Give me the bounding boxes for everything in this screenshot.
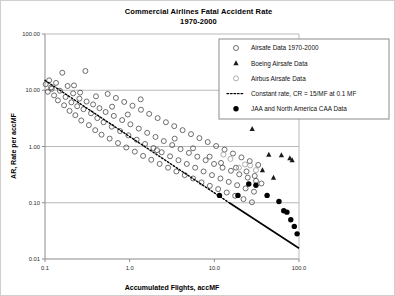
y-tick-label: 1.00 bbox=[29, 144, 40, 150]
data-point bbox=[83, 68, 88, 73]
data-point bbox=[224, 190, 229, 195]
data-point bbox=[253, 183, 258, 188]
data-point bbox=[250, 126, 255, 131]
x-tick-label: 1.0 bbox=[126, 265, 134, 271]
data-point bbox=[237, 172, 242, 177]
data-point bbox=[276, 199, 281, 204]
data-point bbox=[176, 158, 181, 163]
data-point bbox=[197, 136, 202, 141]
data-point bbox=[251, 189, 256, 194]
data-point bbox=[235, 183, 240, 188]
data-point bbox=[239, 155, 244, 160]
data-point bbox=[143, 141, 148, 146]
data-point bbox=[235, 193, 240, 198]
data-point bbox=[62, 103, 67, 108]
data-point bbox=[136, 126, 141, 131]
data-point bbox=[128, 122, 133, 127]
legend-label: Airsafe Data 1970-2000 bbox=[251, 44, 319, 51]
y-axis-label: AR, Rate per accMF bbox=[10, 112, 18, 178]
legend-item-4[interactable]: JAA and North America CAA Data bbox=[233, 105, 347, 112]
y-tick-label: 100.00 bbox=[22, 31, 40, 37]
data-point bbox=[157, 161, 162, 166]
data-point bbox=[259, 181, 264, 186]
data-point bbox=[69, 100, 74, 105]
data-point bbox=[77, 96, 82, 101]
data-point bbox=[149, 157, 154, 162]
trend-line-dashed bbox=[45, 80, 229, 202]
data-point bbox=[222, 147, 227, 152]
data-point bbox=[180, 128, 185, 133]
chart-figure: Commercial Airlines Fatal Accident Rate … bbox=[0, 0, 395, 296]
data-point bbox=[294, 231, 299, 236]
data-point bbox=[244, 169, 249, 174]
data-point bbox=[111, 113, 116, 118]
data-point bbox=[184, 161, 189, 166]
data-point bbox=[256, 162, 261, 167]
data-point bbox=[178, 147, 183, 152]
data-point bbox=[138, 97, 143, 102]
series-1 bbox=[250, 126, 295, 180]
y-tick-label: 10.00 bbox=[25, 87, 40, 93]
data-point bbox=[54, 80, 59, 85]
x-axis-label: Accumulated Flights, accMF bbox=[125, 284, 220, 292]
data-point bbox=[155, 116, 160, 121]
legend-label: JAA and North America CAA Data bbox=[251, 105, 347, 112]
data-point bbox=[221, 152, 226, 157]
data-point bbox=[246, 181, 251, 186]
data-point bbox=[93, 128, 98, 133]
x-tick-label: 0.1 bbox=[41, 265, 49, 271]
data-point bbox=[99, 132, 104, 137]
data-point bbox=[172, 136, 177, 141]
data-point bbox=[186, 150, 191, 155]
data-point bbox=[292, 224, 297, 229]
data-point bbox=[163, 120, 168, 125]
data-point bbox=[174, 169, 179, 174]
data-point bbox=[67, 108, 72, 113]
data-point bbox=[71, 91, 76, 96]
data-point bbox=[93, 94, 98, 99]
data-point bbox=[193, 165, 198, 170]
legend-label: Constant rate, CR = 15/MF at 0.1 MF bbox=[251, 90, 356, 97]
data-point bbox=[201, 169, 206, 174]
data-point bbox=[52, 93, 57, 98]
data-point bbox=[168, 154, 173, 159]
data-point bbox=[241, 197, 246, 202]
data-point bbox=[242, 162, 247, 167]
data-point bbox=[172, 124, 177, 129]
data-point bbox=[86, 123, 91, 128]
data-point bbox=[161, 139, 166, 144]
x-tick-label: 10.0 bbox=[209, 265, 220, 271]
data-point bbox=[132, 149, 137, 154]
data-point bbox=[279, 152, 284, 157]
data-point bbox=[105, 91, 110, 96]
data-point bbox=[84, 99, 89, 104]
x-tick-label: 100.0 bbox=[292, 265, 307, 271]
data-point bbox=[209, 173, 214, 178]
data-point bbox=[159, 150, 164, 155]
legend-marker-filled-circle bbox=[233, 106, 238, 111]
legend-label: Boeing Airsafe Data bbox=[251, 60, 308, 68]
data-point bbox=[101, 120, 106, 125]
data-point bbox=[138, 107, 143, 112]
data-point bbox=[145, 130, 150, 135]
data-point bbox=[188, 132, 193, 137]
y-tick-label: 0.01 bbox=[29, 256, 40, 262]
chart-plot-svg: 100.0010.001.000.100.010.11.010.0100.0 A… bbox=[1, 1, 395, 296]
data-point bbox=[219, 160, 224, 165]
data-point bbox=[271, 175, 276, 180]
data-point bbox=[253, 168, 258, 173]
data-point bbox=[228, 156, 233, 161]
data-point bbox=[78, 90, 83, 95]
data-point bbox=[55, 98, 60, 103]
data-point bbox=[103, 110, 108, 115]
data-point bbox=[220, 165, 225, 170]
data-point bbox=[75, 104, 80, 109]
data-point bbox=[79, 118, 84, 123]
data-point bbox=[110, 104, 115, 109]
data-point bbox=[153, 134, 158, 139]
data-point bbox=[113, 95, 118, 100]
data-point bbox=[284, 209, 289, 214]
data-point bbox=[141, 153, 146, 158]
data-point bbox=[245, 175, 250, 180]
data-point bbox=[218, 176, 223, 181]
